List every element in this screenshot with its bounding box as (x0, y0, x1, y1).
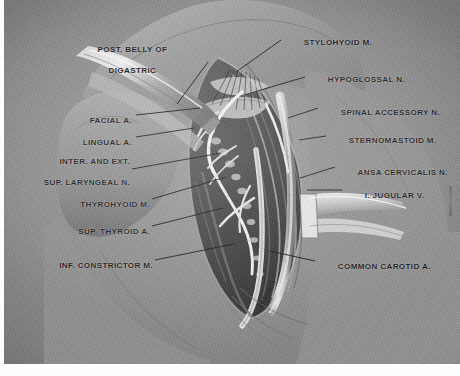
label-line: INTER. AND EXT. (59, 157, 130, 166)
label-hypoglossal-n: HYPOGLOSSAL N. (307, 65, 405, 96)
label-line: FACIAL A. (90, 116, 132, 125)
label-line: SUP. THYROID A. (78, 227, 150, 236)
label-line: SUP. LARYNGEAL N. (44, 178, 130, 187)
label-spinal-accessory-n: SPINAL ACCESSORY N. (320, 98, 440, 129)
label-line: SPINAL ACCESSORY N. (341, 108, 440, 117)
label-line: THYROHYOID M. (80, 200, 150, 209)
photographic-plate: POST. BELLY OF DIGASTRIC STYLOHYOID M. H… (4, 0, 460, 364)
anatomical-plate: POST. BELLY OF DIGASTRIC STYLOHYOID M. H… (0, 0, 460, 376)
label-sup-thyroid-a: SUP. THYROID A. (4, 217, 150, 248)
scan-edge-artifact (449, 186, 452, 216)
label-line: HYPOGLOSSAL N. (328, 75, 405, 84)
label-post-belly-of-digastric: POST. BELLY OF DIGASTRIC (66, 35, 178, 87)
label-stylohyoid-m: STYLOHYOID M. (283, 28, 372, 59)
label-sternomastoid-m: STERNOMASTOID M. (328, 126, 437, 157)
label-inf-constrictor-m: INF. CONSTRICTOR M. (4, 251, 153, 282)
label-line: COMMON CAROTID A. (338, 262, 431, 271)
paper-margin-left (0, 0, 4, 376)
label-line: ANSA CERVICALIS N. (358, 168, 448, 177)
label-line: I. JUGULAR V. (365, 191, 425, 200)
paper-margin-bottom (0, 364, 460, 376)
label-internal-jugular-v: I. JUGULAR V. (344, 181, 424, 212)
label-line: DIGASTRIC (109, 66, 157, 75)
label-layer: POST. BELLY OF DIGASTRIC STYLOHYOID M. H… (4, 0, 460, 364)
label-line: STERNOMASTOID M. (349, 136, 437, 145)
label-line: POST. BELLY OF (98, 45, 168, 54)
label-line: INF. CONSTRICTOR M. (59, 261, 153, 270)
label-line: STYLOHYOID M. (304, 38, 372, 47)
label-common-carotid-a: COMMON CAROTID A. (317, 252, 431, 283)
